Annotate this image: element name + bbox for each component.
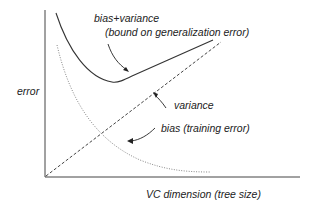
variance-arrow [155, 95, 166, 108]
bias-variance-arrow [108, 44, 127, 70]
variance-label: variance [174, 100, 214, 111]
x-axis-label: VC dimension (tree size) [146, 189, 261, 200]
y-axis-label: error [17, 86, 39, 97]
bias-label: bias (training error) [161, 123, 250, 134]
bias-variance-sublabel: (bound on generalization error) [105, 27, 249, 38]
bias-arrow [131, 128, 155, 141]
bias-variance-label: bias+variance [94, 13, 159, 24]
bias-arrowhead [127, 138, 133, 144]
